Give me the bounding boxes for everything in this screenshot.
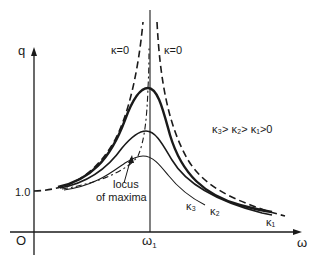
origin-label: O: [16, 233, 26, 248]
locus-label-line2: of maxima: [96, 191, 148, 203]
kappa0-right-label: κ=0: [164, 44, 182, 56]
inequality-label: κ₃> κ₂> κ₁>0: [212, 123, 272, 135]
curve-kappa3: [58, 88, 272, 212]
locus-label-line1: locus: [113, 178, 139, 190]
y-axis-arrow-icon: [31, 47, 37, 56]
kappa3-label: κ₃: [186, 200, 196, 212]
locus-of-maxima-curve: [62, 48, 149, 189]
x-axis-label: ω: [297, 235, 307, 250]
resonance-diagram: q O ω 1.0 ω1 κ=0 κ=0 κ₃> κ₂> κ₁>0 locus …: [0, 0, 314, 261]
omega1-tick-label: ω1: [142, 233, 157, 250]
y-tick-label: 1.0: [15, 186, 30, 198]
kappa1-label: κ₁: [266, 216, 276, 228]
kappa2-label: κ₂: [210, 205, 220, 217]
kappa0-left-label: κ=0: [111, 44, 129, 56]
y-axis-label: q: [18, 43, 25, 58]
